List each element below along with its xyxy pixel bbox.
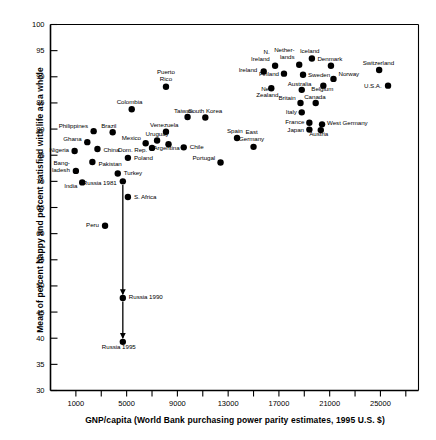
point-label: Portugal (193, 155, 216, 162)
point-label: Nigeria (50, 147, 69, 154)
point-label: S. Africa (134, 194, 157, 201)
point-label: U.S.A. (364, 83, 382, 90)
scatter-plot-figure: NigeriaBang- ladeshIndiaGhanaPhilippines… (0, 0, 436, 440)
x-tick-label: 25000 (360, 399, 400, 408)
point-label: West Germany (327, 120, 368, 127)
point-label: Russia 1990 (129, 294, 163, 301)
point-label: Denmark (317, 56, 342, 63)
point-label: Brazil (101, 123, 116, 130)
data-point (296, 62, 302, 68)
point-label: Belgium (311, 86, 333, 93)
trajectory-arrows (120, 185, 126, 339)
point-label: Argentina (154, 145, 180, 152)
data-point (90, 128, 96, 134)
data-point (120, 295, 126, 301)
point-label: South Korea (188, 108, 222, 115)
data-point (297, 100, 303, 106)
y-axis-title: Mean of percent happy and percent satisf… (35, 20, 45, 380)
point-label: Turkey (124, 170, 142, 177)
data-point (217, 159, 223, 165)
data-point (125, 155, 131, 161)
data-point (281, 70, 287, 76)
plot-frame (51, 25, 419, 391)
data-point (73, 168, 79, 174)
point-label: New Zealand (256, 86, 278, 99)
point-label: Austria (309, 131, 328, 138)
x-tick-label: 21000 (310, 399, 350, 408)
point-label: Dom. Rep. (118, 147, 147, 154)
point-label: Poland (134, 155, 153, 162)
point-label: Canada (304, 94, 325, 101)
point-label: Mexico (122, 135, 141, 142)
data-point (84, 139, 90, 145)
point-label: Uruguay (146, 131, 169, 138)
data-point (71, 148, 77, 154)
data-point (385, 82, 391, 88)
point-label: East Germany (239, 129, 264, 142)
data-point (94, 146, 100, 152)
point-label: Finland (259, 71, 279, 78)
point-label: Norway (338, 71, 359, 78)
data-point (272, 63, 278, 69)
data-point (109, 129, 115, 135)
point-label: Australia (288, 81, 312, 88)
point-label: Puerto Rico (157, 69, 175, 82)
point-label: Bang- ladesh (52, 160, 70, 173)
x-tick-label: 1000 (56, 399, 96, 408)
data-point (319, 121, 325, 127)
point-label: Britain (278, 95, 295, 102)
data-point (202, 114, 208, 120)
point-label: Pakistan (98, 161, 121, 168)
data-point (330, 76, 336, 82)
data-point (309, 55, 315, 61)
point-label: Italy (286, 109, 297, 116)
point-label: France (285, 119, 304, 126)
point-label: Iceland (300, 48, 320, 55)
point-label: Colombia (117, 99, 143, 106)
axis-ticks (51, 25, 406, 397)
data-point (376, 67, 382, 73)
data-point (129, 106, 135, 112)
data-point (120, 178, 126, 184)
point-label: Nether- lands (274, 47, 294, 60)
x-tick-label: 13000 (208, 399, 248, 408)
point-label: China (103, 147, 119, 154)
data-point (154, 137, 160, 143)
point-label: India (64, 183, 77, 190)
point-label: Venezuela (150, 122, 178, 129)
data-point (328, 63, 334, 69)
x-axis-title: GNP/capita (World Bank purchasing power … (50, 415, 420, 425)
point-label: Chile (190, 144, 204, 151)
point-label: Russia 1981 (83, 180, 117, 187)
arrow-head (120, 333, 126, 339)
data-point (115, 170, 121, 176)
data-point (184, 114, 190, 120)
data-point (125, 194, 131, 200)
point-label: Japan (287, 127, 304, 134)
data-point (163, 84, 169, 90)
x-tick-label: 5000 (107, 399, 147, 408)
data-point (300, 71, 306, 77)
data-point (306, 120, 312, 126)
data-point (250, 144, 256, 150)
point-label: N. Ireland (251, 49, 270, 62)
x-tick-label: 9000 (157, 399, 197, 408)
point-label: Russia 1995 (102, 344, 136, 351)
point-label: Ghana (63, 136, 81, 143)
arrow-head (120, 289, 126, 295)
x-tick-label: 17000 (259, 399, 299, 408)
point-label: Ireland (239, 67, 258, 74)
data-point (89, 159, 95, 165)
data-point (102, 223, 108, 229)
point-label: Switzerland (363, 60, 394, 67)
point-label: Philippines (59, 123, 88, 130)
point-label: Sweden (308, 72, 330, 79)
y-tick-label: 30 (23, 386, 45, 395)
data-point (299, 109, 305, 115)
point-label: Peru (86, 222, 99, 229)
data-point (181, 144, 187, 150)
